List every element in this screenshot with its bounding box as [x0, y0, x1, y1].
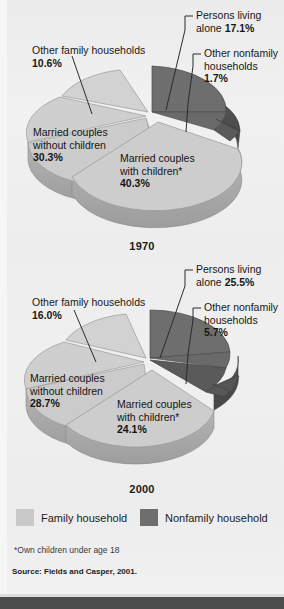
label-other-nonfamily: Other nonfamily households	[204, 47, 278, 72]
value-other-nonfamily: 5.7%	[204, 326, 228, 338]
label-married-without: Married couples without children	[33, 126, 108, 151]
legend-label-family: Family household	[41, 512, 127, 524]
value-persons-living-alone: 25.5%	[225, 276, 255, 288]
household-composition-figure: Persons living alone 17.1% Other nonfami…	[0, 0, 284, 609]
label-married-without: Married couples without children	[30, 372, 105, 397]
legend-label-nonfamily: Nonfamily household	[165, 512, 268, 524]
legend-swatch-nonfamily-icon	[140, 509, 158, 526]
label-other-family: Other family households	[32, 296, 145, 308]
callout-other-nonfamily-2000: Other nonfamily households 5.7%	[204, 301, 282, 339]
bottom-rule-bar	[0, 597, 284, 609]
callout-other-family-2000: Other family households 16.0%	[32, 296, 156, 321]
label-married-with: Married couples with children*	[117, 398, 192, 423]
footnote: *Own children under age 18	[14, 545, 119, 555]
legend-swatch-family-icon	[16, 509, 34, 526]
value-other-family: 16.0%	[32, 309, 62, 321]
source-note: Source: Fields and Casper, 2001.	[12, 567, 137, 576]
value-married-without: 28.7%	[30, 397, 60, 409]
chart-2000: Persons living alone 25.5% Other nonfami…	[0, 258, 284, 501]
label-other-nonfamily: Other nonfamily households	[204, 301, 278, 326]
value-married-without: 30.3%	[33, 151, 63, 163]
legend-item-nonfamily-household: Nonfamily household	[140, 509, 268, 526]
year-label-1970: 1970	[0, 240, 284, 252]
label-other-family: Other family households	[32, 44, 145, 56]
value-other-nonfamily: 1.7%	[204, 72, 228, 84]
label-married-without-children-2000: Married couples without children 28.7%	[30, 372, 124, 410]
label-married-with-children-1970: Married couples with children* 40.3%	[120, 152, 216, 190]
value-other-family: 10.6%	[32, 57, 62, 69]
callout-persons-living-alone-1970: Persons living alone 17.1%	[196, 9, 282, 34]
year-label-2000: 2000	[0, 483, 284, 495]
callout-other-family-1970: Other family households 10.6%	[32, 44, 152, 69]
label-married-without-children-1970: Married couples without children 30.3%	[33, 126, 125, 164]
label-married-with-children-2000: Married couples with children* 24.1%	[117, 398, 213, 436]
value-married-with: 40.3%	[120, 177, 150, 189]
legend: Family household Nonfamily household	[0, 506, 284, 532]
legend-item-family-household: Family household	[16, 509, 127, 526]
callout-persons-living-alone-2000: Persons living alone 25.5%	[196, 263, 282, 288]
value-persons-living-alone: 17.1%	[225, 22, 255, 34]
chart-1970: Persons living alone 17.1% Other nonfami…	[0, 0, 284, 258]
callout-other-nonfamily-1970: Other nonfamily households 1.7%	[204, 47, 282, 85]
value-married-with: 24.1%	[117, 423, 147, 435]
label-married-with: Married couples with children*	[120, 152, 195, 177]
